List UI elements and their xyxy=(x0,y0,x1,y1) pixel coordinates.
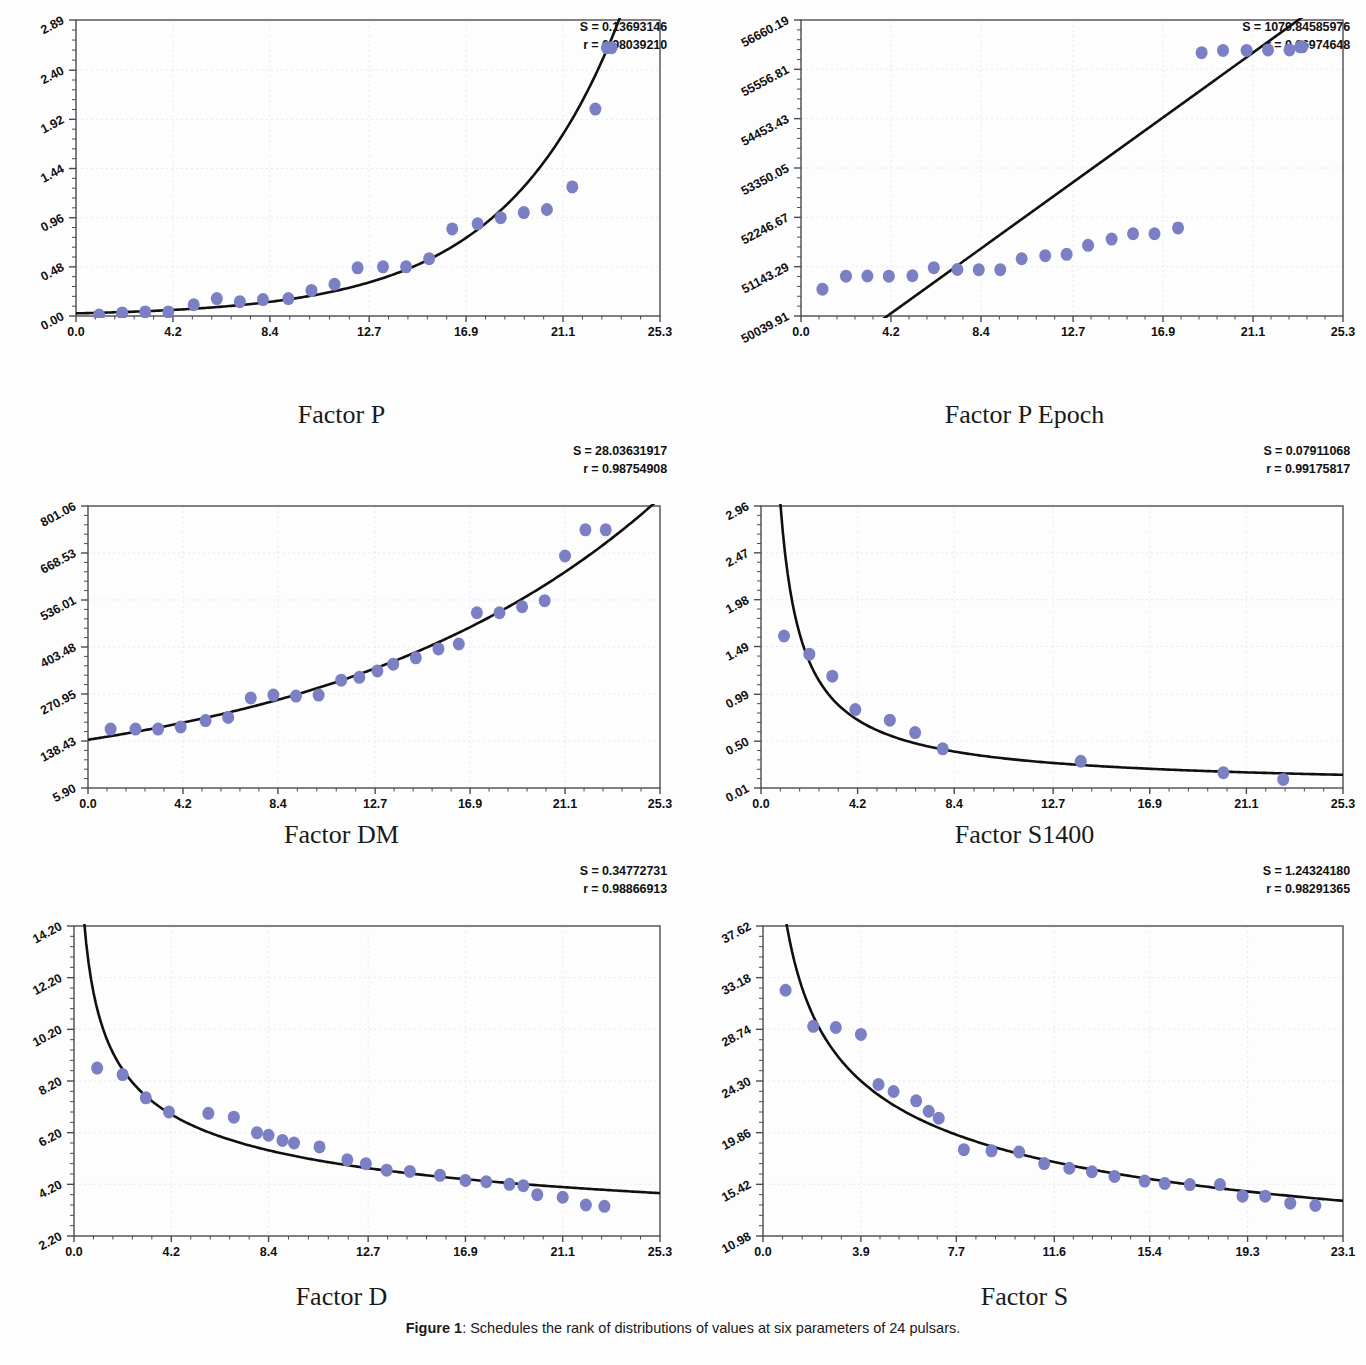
data-point xyxy=(872,1078,884,1091)
data-point xyxy=(257,293,269,306)
data-point xyxy=(335,674,347,687)
xtick-label: 23.1 xyxy=(1331,1245,1355,1259)
data-point xyxy=(994,263,1006,276)
data-point xyxy=(352,261,364,274)
stats-factor-dm: S = 28.03631917 r = 0.98754908 xyxy=(573,442,667,478)
data-point xyxy=(453,637,465,650)
panel-factor-d: S = 0.34772731 r = 0.98866913 2.204.206.… xyxy=(0,858,683,1310)
ytick-label: 53350.05 xyxy=(739,161,792,198)
data-point xyxy=(423,252,435,265)
ytick-label: 24.30 xyxy=(719,1074,753,1101)
data-point xyxy=(251,1126,263,1139)
data-point xyxy=(861,269,873,282)
xtick-label: 0.0 xyxy=(79,797,96,811)
xtick-label: 4.2 xyxy=(174,797,191,811)
panel-grid: S = 0.13693146 r = 0.98039210 0.000.480.… xyxy=(0,0,1366,1310)
xtick-label: 0.0 xyxy=(752,797,769,811)
data-point xyxy=(803,648,815,661)
data-point xyxy=(539,594,551,607)
data-point xyxy=(909,726,921,739)
data-point xyxy=(1082,239,1094,252)
ytick-label: 0.50 xyxy=(723,734,751,758)
xtick-label: 21.1 xyxy=(1241,325,1265,339)
figure-caption-sep: : xyxy=(462,1320,470,1336)
data-point xyxy=(816,283,828,296)
data-point xyxy=(1214,1178,1226,1191)
xtick-label: 25.3 xyxy=(1331,797,1355,811)
xtick-label: 8.4 xyxy=(260,1245,277,1259)
data-point xyxy=(855,1028,867,1041)
xtick-label: 4.2 xyxy=(163,1245,180,1259)
panel-factor-p-epoch: S = 1079.84585976 r = 0.86974648 50039.9… xyxy=(683,0,1366,438)
panel-factor-p: S = 0.13693146 r = 0.98039210 0.000.480.… xyxy=(0,0,683,438)
data-point xyxy=(129,723,141,736)
data-point xyxy=(493,606,505,619)
ytick-label: 0.96 xyxy=(38,211,66,235)
data-point xyxy=(1259,1190,1271,1203)
ytick-label: 54453.43 xyxy=(739,112,792,149)
data-point xyxy=(471,606,483,619)
data-point xyxy=(559,550,571,563)
data-point xyxy=(1016,252,1028,265)
stat-r-value: r = 0.98866913 xyxy=(580,880,667,898)
ytick-label: 1.98 xyxy=(723,593,751,617)
data-point xyxy=(140,1091,152,1104)
ytick-label: 1.92 xyxy=(38,113,66,137)
ytick-label: 8.20 xyxy=(36,1074,64,1098)
stats-factor-s1400: S = 0.07911068 r = 0.99175817 xyxy=(1263,442,1350,478)
xtick-label: 0.0 xyxy=(65,1245,82,1259)
data-point xyxy=(1217,766,1229,779)
data-point xyxy=(883,270,895,283)
data-point xyxy=(580,1199,592,1212)
xtick-label: 4.2 xyxy=(849,797,866,811)
ytick-label: 4.20 xyxy=(36,1178,64,1202)
data-point xyxy=(305,284,317,297)
data-point xyxy=(1196,46,1208,59)
data-point xyxy=(200,714,212,727)
xtick-label: 21.1 xyxy=(1234,797,1258,811)
xtick-label: 12.7 xyxy=(1041,797,1065,811)
plot-area-factor-s: 10.9815.4219.8624.3028.7433.1837.620.03.… xyxy=(683,898,1366,1298)
xaxis-title-factor-s1400: Factor S1400 xyxy=(683,820,1366,850)
xaxis-title-factor-dm: Factor DM xyxy=(0,820,683,850)
data-point xyxy=(288,1137,300,1150)
data-point xyxy=(163,1106,175,1119)
stat-s-value: S = 0.34772731 xyxy=(580,862,667,880)
data-point xyxy=(1075,755,1087,768)
ytick-label: 138.43 xyxy=(38,734,78,764)
data-point xyxy=(1262,43,1274,56)
ytick-label: 12.20 xyxy=(30,971,64,998)
data-point xyxy=(495,211,507,224)
data-point xyxy=(117,1068,129,1081)
xtick-label: 25.3 xyxy=(648,797,672,811)
xtick-label: 16.9 xyxy=(1151,325,1175,339)
plot-area-factor-d: 2.204.206.208.2010.2012.2014.200.04.28.4… xyxy=(0,898,683,1298)
ytick-label: 536.01 xyxy=(38,593,78,623)
xtick-label: 4.2 xyxy=(882,325,899,339)
data-point xyxy=(432,642,444,655)
data-point xyxy=(1284,1197,1296,1210)
data-point xyxy=(958,1143,970,1156)
data-point xyxy=(1086,1165,1098,1178)
data-point xyxy=(446,222,458,235)
data-point xyxy=(830,1021,842,1034)
ytick-label: 14.20 xyxy=(30,919,64,946)
data-point xyxy=(276,1134,288,1147)
xtick-label: 16.9 xyxy=(453,1245,477,1259)
data-point xyxy=(211,292,223,305)
xaxis-title-factor-d: Factor D xyxy=(0,1282,683,1312)
data-point xyxy=(928,261,940,274)
data-point xyxy=(884,714,896,727)
data-point xyxy=(404,1165,416,1178)
ytick-label: 10.98 xyxy=(719,1229,753,1256)
xaxis-title-factor-s: Factor S xyxy=(683,1282,1366,1312)
panel-factor-s1400: S = 0.07911068 r = 0.99175817 0.010.500.… xyxy=(683,438,1366,858)
xaxis-title-factor-p-epoch: Factor P Epoch xyxy=(683,400,1366,430)
ytick-label: 55556.81 xyxy=(739,63,792,100)
ytick-label: 56660.19 xyxy=(739,13,792,50)
data-point xyxy=(202,1107,214,1120)
data-point xyxy=(888,1085,900,1098)
data-point xyxy=(937,742,949,755)
ytick-label: 270.95 xyxy=(38,687,78,717)
ytick-label: 801.06 xyxy=(38,499,78,529)
